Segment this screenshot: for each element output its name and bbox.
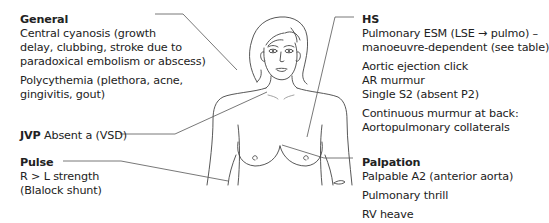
general-line: delay, clubbing, stroke due to (20, 41, 206, 55)
left-breast (238, 142, 280, 166)
pulse-annotation: Pulse R > L strength (Blalock shunt) (20, 156, 102, 198)
leader-palpation (282, 145, 353, 158)
jvp-annotation: JVP Absent a (VSD) (20, 129, 127, 143)
hs-line: Aortic ejection click (362, 60, 549, 74)
palpation-title: Palpation (362, 156, 513, 170)
right-shoulder (297, 88, 352, 185)
pulse-title: Pulse (20, 156, 102, 170)
hs-title: HS (362, 13, 549, 27)
palpation-line: RV heave (362, 208, 513, 222)
pulse-line: R > L strength (20, 170, 102, 184)
general-line: gingivitis, gout) (20, 88, 206, 102)
right-breast (280, 142, 322, 166)
hs-line: AR murmur (362, 74, 549, 88)
general-line: Polycythemia (plethora, acne, (20, 74, 206, 88)
hair-outline (250, 17, 308, 84)
hs-line: Single S2 (absent P2) (362, 88, 549, 102)
hs-annotation: HS Pulmonary ESM (LSE → pulmo) – manoeuv… (362, 13, 549, 135)
hs-line: manoeuvre-dependent (see table) (362, 41, 549, 55)
hs-line: Pulmonary ESM (LSE → pulmo) – (362, 27, 549, 41)
general-title: General (20, 13, 206, 27)
left-shoulder (207, 88, 266, 185)
palpation-line: Pulmonary thrill (362, 189, 513, 203)
jvp-text: Absent a (VSD) (44, 129, 127, 142)
pulse-line: (Blalock shunt) (20, 184, 102, 198)
general-annotation: General Central cyanosis (growth delay, … (20, 13, 206, 102)
hs-line: Continuous murmur at back: (362, 107, 549, 121)
general-line: paradoxical embolism or abscess) (20, 55, 206, 69)
jvp-title: JVP (20, 129, 41, 142)
palpation-annotation: Palpation Palpable A2 (anterior aorta) P… (362, 156, 513, 222)
hs-line: Aortopulmonary collaterals (362, 121, 549, 135)
general-line: Central cyanosis (growth (20, 27, 206, 41)
palpation-line: Palpable A2 (anterior aorta) (362, 170, 513, 184)
